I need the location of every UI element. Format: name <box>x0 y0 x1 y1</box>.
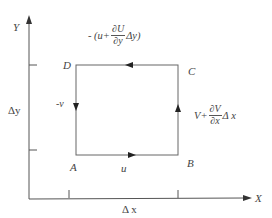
top-expr-fraction: ∂U ∂y <box>111 24 125 46</box>
top-expr-suffix: Δy) <box>126 30 140 41</box>
velocity-bottom-label: u <box>121 163 127 174</box>
corner-label-a: A <box>70 162 77 173</box>
right-expr-fraction: ∂V ∂x <box>209 104 222 126</box>
top-edge-arrow-icon <box>125 62 133 68</box>
right-expr-numerator: ∂V <box>209 104 222 116</box>
x-axis-label: X <box>255 193 262 204</box>
right-expr-denominator: ∂x <box>209 116 220 127</box>
right-expr-suffix: Δ x <box>223 110 236 121</box>
bottom-edge-arrow-icon <box>128 152 136 158</box>
corner-label-b: B <box>187 158 194 169</box>
x-axis <box>29 198 244 199</box>
fluid-element-rectangle <box>76 65 178 155</box>
right-expr-prefix: V+ <box>194 110 208 121</box>
left-edge-arrow-icon <box>73 103 79 111</box>
dx-dimension-label: Δ x <box>122 204 137 215</box>
top-expr-prefix: - (u+ <box>88 30 110 41</box>
top-velocity-expression: - (u+ ∂U ∂y Δy) <box>88 24 140 46</box>
dy-dimension-label: Δy <box>8 105 21 116</box>
y-axis-arrowhead-icon <box>26 15 32 24</box>
right-edge-arrow-icon <box>175 104 181 112</box>
top-expr-denominator: ∂y <box>112 36 123 47</box>
velocity-left-label: -v <box>56 99 64 109</box>
corner-label-c: C <box>188 66 195 77</box>
right-velocity-expression: V+ ∂V ∂x Δ x <box>194 104 236 126</box>
corner-label-d: D <box>63 60 71 71</box>
x-axis-arrowhead-icon <box>243 195 252 201</box>
top-expr-numerator: ∂U <box>111 24 125 36</box>
y-axis-label: Y <box>13 22 19 33</box>
